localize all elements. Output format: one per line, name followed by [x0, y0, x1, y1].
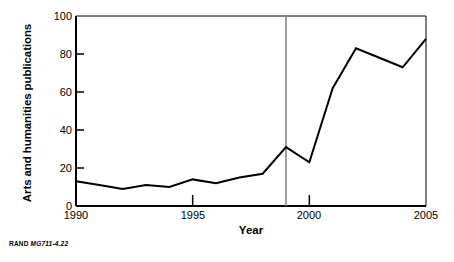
- figure-container: Arts and humanities publications 100 80 …: [0, 0, 454, 262]
- plot-area: [0, 0, 454, 262]
- axis-lines: [76, 16, 426, 206]
- x-axis-tick-marks: [193, 195, 310, 206]
- figure-credit: RAND MG711-4.22: [9, 240, 68, 247]
- credit-organization: RAND: [9, 240, 29, 247]
- y-axis-tick-marks: [76, 54, 84, 168]
- credit-figure-code: MG711-4.22: [31, 240, 69, 247]
- data-series-line: [76, 39, 426, 189]
